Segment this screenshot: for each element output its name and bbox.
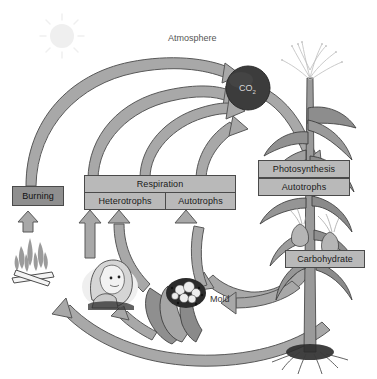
- label-co2: CO2: [239, 83, 256, 95]
- arrow-respiration-to-co2: [140, 99, 245, 178]
- arrow-fire-to-burning: [18, 211, 38, 232]
- box-burning[interactable]: Burning: [12, 186, 64, 206]
- sun-icon: [40, 14, 84, 58]
- arrow-girl-to-heterotrophs: [79, 210, 101, 258]
- co2-text: CO: [239, 83, 253, 93]
- box-photosynthesis[interactable]: Photosynthesis: [258, 160, 350, 178]
- co2-subscript: 2: [253, 89, 256, 95]
- box-autotrophs-respiration[interactable]: Autotrophs: [165, 192, 236, 210]
- arrow-burning-to-co2: [26, 58, 241, 186]
- arrow-carbohydrate-to-mold: [221, 281, 300, 314]
- carbon-cycle-diagram: .arw { fill: #a8a8a8; stroke: #585858; s…: [0, 0, 377, 379]
- arrow-autotrophs-to-co2: [196, 116, 248, 180]
- campfire-illustration: [12, 238, 54, 286]
- box-respiration[interactable]: Respiration: [84, 175, 236, 193]
- arrow-autotrophs-feed: [175, 210, 197, 223]
- box-carbohydrate[interactable]: Carbohydrate: [285, 250, 365, 268]
- box-autotrophs-photosynthesis[interactable]: Autotrophs: [258, 178, 350, 196]
- box-heterotrophs[interactable]: Heterotrophs: [84, 192, 166, 210]
- corn-plant-illustration: [260, 41, 356, 374]
- arrow-autotrophs-rise: [191, 226, 207, 288]
- label-mold: Mold: [210, 294, 230, 304]
- label-atmosphere: Atmosphere: [168, 33, 217, 43]
